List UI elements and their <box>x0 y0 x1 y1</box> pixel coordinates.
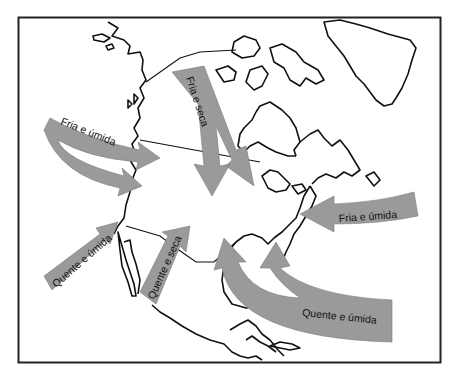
arrow-quente-umida-pacific: Quente e úmida <box>44 222 118 290</box>
arrow-quente-seca: Quente e seca <box>140 226 190 304</box>
label-quente-umida-pacific: Quente e úmida <box>49 231 113 289</box>
arrow-fria-umida-pacific: Fria e úmida <box>44 115 160 196</box>
air-masses-map: Fria e úmida Fria e seca Fria e úmida Qu… <box>0 0 451 377</box>
arrow-quente-umida-gulf: Quente e úmida <box>214 238 392 342</box>
air-mass-arrows: Fria e úmida Fria e seca Fria e úmida Qu… <box>44 66 418 342</box>
arrow-fria-umida-atlantic: Fria e úmida <box>300 192 418 232</box>
